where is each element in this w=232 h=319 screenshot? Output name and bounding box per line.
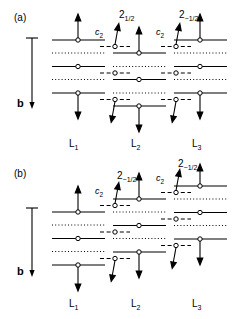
panel-b-screw-left-label: 2−1/2 bbox=[117, 170, 136, 183]
panel-a-column-label-L2: L2 bbox=[131, 138, 140, 151]
panel-b: (b) b bbox=[0, 160, 232, 319]
panel-b-lattice bbox=[0, 160, 232, 319]
panel-a-c2-right-label: c2 bbox=[156, 27, 164, 39]
panel-a: (a) b bbox=[0, 0, 232, 159]
panel-a-screw-left-label: 21/2 bbox=[119, 9, 134, 22]
panel-b-screw-right-label: 2−1/2 bbox=[178, 158, 197, 171]
panel-a-column-label-L3: L3 bbox=[192, 138, 201, 151]
panel-b-column-label-L2: L2 bbox=[131, 298, 140, 311]
panel-b-c2-right-label: c2 bbox=[156, 173, 164, 185]
panel-b-c2-left-label: c2 bbox=[95, 186, 103, 198]
panel-b-column-label-L3: L3 bbox=[192, 298, 201, 311]
panel-a-lattice bbox=[0, 0, 232, 159]
panel-a-screw-right-label: 2−1/2 bbox=[179, 9, 198, 22]
panel-a-c2-left-label: c2 bbox=[95, 27, 103, 39]
panel-b-column-label-L1: L1 bbox=[69, 298, 78, 311]
panel-a-column-label-L1: L1 bbox=[69, 138, 78, 151]
